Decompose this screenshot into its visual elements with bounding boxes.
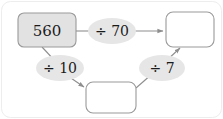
- node-top-right-box[interactable]: [166, 12, 214, 47]
- operation-div10[interactable]: ÷ 10: [36, 55, 84, 81]
- node-bottom[interactable]: [86, 82, 136, 113]
- operation-div10-label: ÷ 10: [43, 60, 77, 76]
- operation-div7[interactable]: ÷ 7: [139, 55, 185, 81]
- operation-div70-label: ÷ 70: [95, 23, 129, 39]
- diagram-svg: 560 ÷ 70 ÷ 10 ÷ 7: [0, 0, 223, 119]
- node-top-right[interactable]: [166, 12, 214, 47]
- node-start[interactable]: 560: [18, 13, 76, 47]
- operation-div7-label: ÷ 7: [149, 60, 174, 76]
- diagram-canvas: 560 ÷ 70 ÷ 10 ÷ 7: [0, 0, 223, 119]
- operation-div70[interactable]: ÷ 70: [88, 18, 136, 44]
- node-bottom-box[interactable]: [86, 82, 136, 113]
- node-start-label: 560: [33, 22, 62, 40]
